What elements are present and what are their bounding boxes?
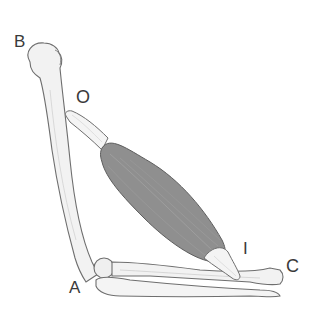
muscle-belly — [101, 143, 226, 262]
elbow-joint — [94, 258, 114, 278]
label-origin: O — [76, 88, 90, 106]
label-b: B — [14, 33, 25, 50]
diagram-drawing — [0, 0, 331, 335]
label-c: C — [286, 257, 299, 275]
humerus-bone — [28, 43, 98, 282]
forearm-bones — [96, 262, 283, 297]
label-insertion: I — [243, 240, 248, 257]
origin-tendon — [65, 111, 108, 150]
label-a: A — [69, 279, 80, 296]
